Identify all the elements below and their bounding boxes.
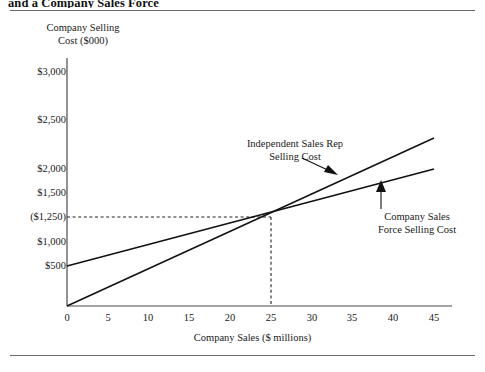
series-line-company-sales-force bbox=[67, 138, 434, 306]
plot-area bbox=[0, 0, 485, 372]
independent-sales-rep-arrow-head bbox=[324, 165, 338, 175]
series-line-independent-sales-rep bbox=[67, 169, 434, 266]
figure-container: and a Company Sales Force Company Sellin… bbox=[0, 0, 485, 372]
